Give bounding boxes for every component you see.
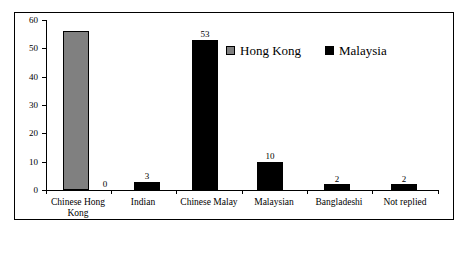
bar-malaysian-malaysia: [257, 162, 283, 190]
chart-legend: Hong Kong Malaysia: [226, 44, 387, 57]
bar-chart: 60 50 40 30 20 10 0 0 3 53 10 2 2 Chines…: [0, 0, 468, 268]
bar-value-indian: 3: [145, 172, 150, 181]
x-axis-label-not-replied: Not replied: [374, 197, 436, 208]
bar-value-not-replied: 2: [402, 175, 407, 184]
x-axis-label-chinese-hong-kong: Chinese Hong Kong: [49, 197, 107, 219]
legend-entry-malaysia: Malaysia: [325, 44, 387, 57]
bar-value-chinese-malay: 53: [201, 30, 210, 39]
y-tick-label-50: 50: [14, 44, 38, 53]
y-tick-label-30: 30: [14, 101, 38, 110]
y-tick-label-40: 40: [14, 72, 38, 81]
bar-not-replied-malaysia: [391, 184, 417, 190]
legend-label-hong-kong: Hong Kong: [240, 44, 301, 57]
bar-bangladeshi-malaysia: [324, 184, 350, 190]
x-tick-mark-2: [176, 190, 177, 194]
y-tick-label-20: 20: [14, 129, 38, 138]
x-axis-label-malaysian: Malaysian: [243, 197, 305, 208]
x-tick-mark-4: [307, 190, 308, 194]
bar-indian-malaysia: [134, 182, 160, 191]
bar-value-chinese-hong-kong: 0: [103, 180, 108, 189]
bar-value-malaysian: 10: [266, 152, 275, 161]
y-tick-label-0: 0: [14, 186, 38, 195]
bar-value-bangladeshi: 2: [335, 175, 340, 184]
legend-swatch-malaysia-icon: [325, 46, 334, 55]
x-tick-mark-5: [372, 190, 373, 194]
x-tick-mark-1: [111, 190, 112, 194]
bar-chinese-hong-kong-hong-kong: [63, 31, 89, 190]
x-tick-mark-0: [46, 190, 47, 194]
x-axis-label-bangladeshi: Bangladeshi: [307, 197, 371, 208]
x-tick-mark-3: [242, 190, 243, 194]
x-axis-label-indian: Indian: [113, 197, 173, 208]
legend-swatch-hong-kong-icon: [226, 46, 235, 55]
legend-entry-hong-kong: Hong Kong: [226, 44, 301, 57]
x-tick-mark-6: [438, 190, 439, 194]
legend-label-malaysia: Malaysia: [339, 44, 387, 57]
x-axis-label-chinese-malay: Chinese Malay: [177, 197, 241, 208]
y-tick-label-10: 10: [14, 157, 38, 166]
bar-chinese-malay-malaysia: [192, 40, 218, 190]
y-tick-label-60: 60: [14, 16, 38, 25]
